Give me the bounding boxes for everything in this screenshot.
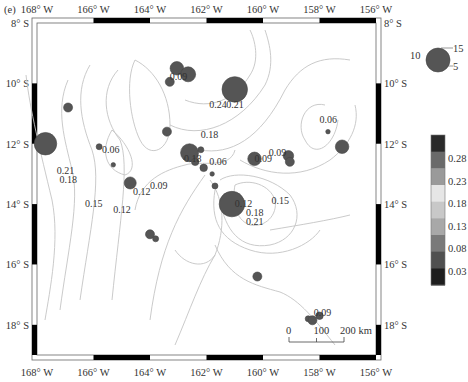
earthquake-marker	[34, 132, 57, 155]
colorbar-segment	[431, 185, 445, 202]
panel-label: (e)	[4, 4, 16, 16]
contour-label: 0.15	[85, 198, 103, 209]
frame-bar-right	[376, 83, 381, 143]
lon-tick-label-top: 166° W	[77, 4, 109, 15]
scale-bar-label: 100	[314, 325, 330, 336]
contour-line	[175, 255, 215, 345]
lat-tick-label-left: 12° S	[6, 139, 29, 150]
lon-tick-label-bottom: 160° W	[247, 367, 279, 378]
contour-label: 0.09	[269, 147, 287, 158]
colorbar-segment	[431, 218, 445, 235]
contour-line	[80, 65, 96, 300]
contour-label: 0.12	[133, 186, 151, 197]
frame-bar-bottom	[94, 355, 151, 360]
lat-tick-label-left: 16° S	[6, 259, 29, 270]
contour-label: 0.18	[60, 174, 78, 185]
lon-tick-label-top: 158° W	[303, 4, 335, 15]
lat-tick-label-right: 18° S	[384, 320, 407, 331]
lon-tick-label-bottom: 166° W	[77, 367, 109, 378]
colorbar-segment	[431, 202, 445, 219]
contour-label: 0.18	[184, 153, 202, 164]
colorbar-tick-label: 0.23	[448, 176, 466, 187]
colorbar-segment	[431, 235, 445, 252]
size-legend-label: 15	[453, 43, 464, 54]
contour-line	[26, 75, 55, 320]
earthquake-marker	[210, 172, 215, 177]
lat-tick-label-right: 12° S	[384, 139, 407, 150]
frame-bar-bottom	[320, 355, 377, 360]
map-frame: 168° W168° W166° W166° W164° W164° W162°…	[6, 4, 407, 378]
lat-tick-label-left: 8° S	[11, 18, 29, 29]
lat-tick-label-right: 14° S	[384, 199, 407, 210]
scale-bar: 0100200 km	[286, 325, 372, 342]
size-legend-label: 5	[453, 61, 458, 72]
earthquake-marker	[162, 127, 171, 136]
frame-bar-left	[32, 204, 37, 264]
colorbar-segment	[431, 135, 445, 152]
scale-bar-line	[289, 337, 344, 342]
colorbar-segment	[431, 168, 445, 185]
colorbar-tick-label: 0.28	[448, 153, 466, 164]
earthquake-marker	[200, 164, 208, 172]
scale-bar-label: 0	[286, 325, 291, 336]
contour-line	[301, 104, 338, 149]
frame-bar-right	[376, 204, 381, 264]
contour-label: 0.06	[209, 156, 227, 167]
contour-label: 0.12	[113, 204, 130, 215]
colorbar: 0.280.230.180.130.080.03	[431, 135, 466, 286]
colorbar-segment	[431, 152, 445, 169]
lon-tick-label-top: 164° W	[134, 4, 166, 15]
frame-bar-bottom	[207, 355, 264, 360]
lat-tick-label-right: 10° S	[384, 78, 407, 89]
earthquake-marker	[111, 163, 116, 168]
contour-label: 0.06	[320, 114, 338, 125]
earthquake-marker	[285, 157, 294, 166]
lat-tick-label-left: 10° S	[6, 78, 29, 89]
frame-bar-left	[32, 325, 37, 355]
lon-tick-label-bottom: 156° W	[360, 367, 392, 378]
colorbar-tick-label: 0.13	[448, 221, 466, 232]
colorbar-tick-label: 0.08	[448, 243, 466, 254]
frame-bar-top	[207, 18, 264, 23]
earthquake-marker	[212, 183, 218, 189]
colorbar-tick-label: 0.18	[448, 198, 466, 209]
size-legend: 10 15 5	[410, 43, 464, 72]
lat-tick-label-right: 16° S	[384, 259, 407, 270]
contour-line	[270, 215, 350, 230]
earthquake-marker	[335, 140, 349, 154]
frame-bar-top	[320, 18, 377, 23]
lon-tick-label-bottom: 168° W	[21, 367, 53, 378]
lon-tick-label-top: 156° W	[360, 4, 392, 15]
colorbar-tick-label: 0.03	[448, 266, 466, 277]
lon-tick-label-top: 168° W	[21, 4, 53, 15]
contour-label: 0.21	[246, 216, 263, 227]
earthquake-marker	[153, 236, 159, 242]
lon-tick-label-top: 160° W	[247, 4, 279, 15]
lat-tick-label-left: 18° S	[6, 320, 29, 331]
lon-tick-label-bottom: 164° W	[134, 367, 166, 378]
colorbar-segment	[431, 268, 445, 285]
frame-bar-top	[94, 18, 151, 23]
seismic-map-figure: (e) 168° W168° W166° W166° W164° W164° W…	[0, 0, 468, 382]
contour-label: 0.21	[226, 99, 244, 110]
contour-line	[60, 80, 75, 310]
contour-label: 0.09	[170, 71, 188, 82]
contour-label: 0.24	[209, 99, 227, 110]
contour-label: 0.06	[102, 144, 120, 155]
frame-bar-right	[376, 325, 381, 355]
lat-tick-label-left: 14° S	[6, 199, 29, 210]
contour-label: 0.09	[314, 307, 332, 318]
contour-line	[106, 70, 124, 300]
contour-line	[150, 175, 205, 320]
size-legend-circle	[426, 48, 450, 72]
scale-bar-label: 200 km	[340, 325, 372, 336]
contour-label: 0.18	[201, 129, 219, 140]
earthquake-marker	[326, 129, 331, 134]
earthquake-marker	[64, 103, 73, 112]
earthquake-marker	[253, 272, 262, 281]
earthquake-markers	[34, 62, 349, 325]
lon-tick-label-top: 162° W	[190, 4, 222, 15]
map-border	[37, 23, 376, 355]
contour-line	[130, 60, 170, 151]
lon-tick-label-bottom: 162° W	[190, 367, 222, 378]
